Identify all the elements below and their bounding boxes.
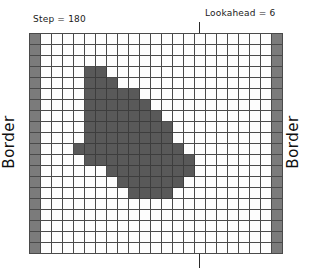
grid-cell-empty[interactable]: [250, 199, 261, 210]
grid-cell-empty[interactable]: [63, 199, 74, 210]
grid-cell-empty[interactable]: [107, 56, 118, 67]
grid-cell-empty[interactable]: [162, 232, 173, 243]
grid-cell-empty[interactable]: [261, 221, 272, 232]
grid-cell-empty[interactable]: [206, 155, 217, 166]
grid-cell-empty[interactable]: [195, 67, 206, 78]
grid-cell-empty[interactable]: [206, 100, 217, 111]
grid-cell-empty[interactable]: [63, 177, 74, 188]
grid-cell-empty[interactable]: [162, 221, 173, 232]
grid-cell-empty[interactable]: [74, 243, 85, 254]
grid-cell-empty[interactable]: [162, 45, 173, 56]
grid-cell-empty[interactable]: [206, 34, 217, 45]
grid-cell-empty[interactable]: [162, 34, 173, 45]
grid-cell-empty[interactable]: [107, 177, 118, 188]
grid-cell-filled[interactable]: [107, 133, 118, 144]
grid-cell-border[interactable]: [272, 100, 283, 111]
grid-cell-empty[interactable]: [228, 177, 239, 188]
grid-cell-empty[interactable]: [195, 34, 206, 45]
grid-cell-empty[interactable]: [206, 67, 217, 78]
grid-cell-empty[interactable]: [151, 100, 162, 111]
grid-cell-empty[interactable]: [151, 67, 162, 78]
grid-cell-empty[interactable]: [184, 243, 195, 254]
grid-cell-empty[interactable]: [195, 210, 206, 221]
grid-cell-empty[interactable]: [206, 133, 217, 144]
grid-cell-empty[interactable]: [151, 210, 162, 221]
grid-cell-empty[interactable]: [151, 232, 162, 243]
grid-cell-empty[interactable]: [261, 232, 272, 243]
grid-cell-border[interactable]: [272, 210, 283, 221]
grid-cell-filled[interactable]: [129, 111, 140, 122]
grid-cell-filled[interactable]: [184, 155, 195, 166]
grid-cell-empty[interactable]: [162, 100, 173, 111]
grid-cell-empty[interactable]: [140, 221, 151, 232]
grid-cell-empty[interactable]: [85, 243, 96, 254]
grid-cell-empty[interactable]: [140, 34, 151, 45]
grid-cell-empty[interactable]: [52, 221, 63, 232]
grid-cell-empty[interactable]: [228, 78, 239, 89]
grid-cell-empty[interactable]: [206, 221, 217, 232]
grid-cell-empty[interactable]: [41, 34, 52, 45]
grid-cell-empty[interactable]: [129, 78, 140, 89]
grid-cell-empty[interactable]: [129, 232, 140, 243]
grid-cell-empty[interactable]: [184, 177, 195, 188]
grid-cell-empty[interactable]: [41, 155, 52, 166]
grid-cell-empty[interactable]: [228, 155, 239, 166]
grid-cell-empty[interactable]: [118, 210, 129, 221]
grid-cell-empty[interactable]: [217, 100, 228, 111]
grid-cell-empty[interactable]: [140, 243, 151, 254]
grid-cell-empty[interactable]: [217, 177, 228, 188]
grid-cell-empty[interactable]: [140, 199, 151, 210]
grid-cell-empty[interactable]: [250, 177, 261, 188]
grid-cell-border[interactable]: [272, 166, 283, 177]
grid-cell-empty[interactable]: [239, 188, 250, 199]
grid-cell-empty[interactable]: [96, 166, 107, 177]
grid-cell-empty[interactable]: [250, 67, 261, 78]
grid-cell-empty[interactable]: [239, 199, 250, 210]
grid-cell-empty[interactable]: [52, 56, 63, 67]
grid-cell-empty[interactable]: [151, 45, 162, 56]
grid-cell-filled[interactable]: [118, 100, 129, 111]
grid-cell-empty[interactable]: [217, 232, 228, 243]
grid-cell-empty[interactable]: [85, 221, 96, 232]
grid-cell-empty[interactable]: [41, 210, 52, 221]
grid-cell-empty[interactable]: [195, 232, 206, 243]
grid-cell-empty[interactable]: [250, 89, 261, 100]
grid-cell-empty[interactable]: [173, 45, 184, 56]
grid-cell-empty[interactable]: [41, 78, 52, 89]
grid-cell-empty[interactable]: [41, 243, 52, 254]
grid-cell-filled[interactable]: [151, 166, 162, 177]
grid-cell-empty[interactable]: [217, 56, 228, 67]
grid-cell-border[interactable]: [272, 34, 283, 45]
grid-cell-filled[interactable]: [162, 155, 173, 166]
grid-cell-empty[interactable]: [41, 166, 52, 177]
grid-cell-filled[interactable]: [140, 111, 151, 122]
grid-cell-filled[interactable]: [140, 122, 151, 133]
grid-cell-empty[interactable]: [228, 232, 239, 243]
grid-cell-empty[interactable]: [184, 56, 195, 67]
grid-cell-empty[interactable]: [129, 243, 140, 254]
grid-cell-empty[interactable]: [74, 199, 85, 210]
grid-cell-empty[interactable]: [107, 232, 118, 243]
grid-cell-empty[interactable]: [206, 122, 217, 133]
grid-cell-filled[interactable]: [140, 144, 151, 155]
grid-cell-empty[interactable]: [74, 232, 85, 243]
grid-cell-border[interactable]: [272, 188, 283, 199]
grid-cell-empty[interactable]: [217, 133, 228, 144]
grid-cell-empty[interactable]: [250, 210, 261, 221]
grid-cell-filled[interactable]: [85, 122, 96, 133]
grid-cell-empty[interactable]: [173, 67, 184, 78]
grid-cell-empty[interactable]: [63, 67, 74, 78]
grid-cell-empty[interactable]: [74, 133, 85, 144]
grid-cell-border[interactable]: [30, 177, 41, 188]
grid-cell-empty[interactable]: [217, 67, 228, 78]
grid-cell-empty[interactable]: [239, 89, 250, 100]
grid-cell-empty[interactable]: [239, 34, 250, 45]
grid-cell-empty[interactable]: [217, 210, 228, 221]
grid-cell-empty[interactable]: [173, 221, 184, 232]
grid-cell-empty[interactable]: [85, 45, 96, 56]
grid-cell-empty[interactable]: [63, 155, 74, 166]
grid-cell-filled[interactable]: [129, 144, 140, 155]
grid-cell-empty[interactable]: [250, 45, 261, 56]
grid-cell-empty[interactable]: [52, 34, 63, 45]
grid-cell-filled[interactable]: [118, 166, 129, 177]
